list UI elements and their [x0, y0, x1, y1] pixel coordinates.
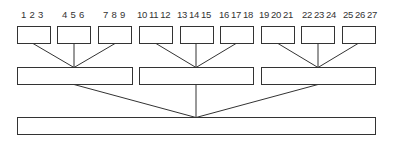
leaf-box-9: [343, 27, 376, 44]
connector: [196, 44, 236, 68]
middle-box-2: [140, 68, 254, 85]
leaf-label-2: 4 5 6: [62, 10, 85, 20]
leaf-label-4: 10 11 12: [137, 10, 170, 20]
leaf-box-6: [221, 27, 254, 44]
leaf-label-1: 1 2 3: [21, 10, 44, 20]
leaf-box-8: [302, 27, 335, 44]
leaf-label-7: 19 20 21: [259, 10, 293, 20]
leaf-label-9: 25 26 27: [343, 10, 377, 20]
tree-diagram: [0, 0, 393, 145]
leaf-box-4: [140, 27, 173, 44]
connector: [278, 44, 318, 68]
leaf-box-3: [99, 27, 132, 44]
leaf-label-8: 22 23 24: [302, 10, 336, 20]
middle-box-3: [262, 68, 376, 85]
connector: [33, 44, 74, 68]
leaf-box-5: [181, 27, 214, 44]
middle-box-1: [18, 68, 133, 85]
connector: [318, 44, 358, 68]
leaf-box-1: [18, 27, 51, 44]
connector: [74, 85, 196, 118]
connector: [196, 85, 318, 118]
leaf-label-3: 7 8 9: [103, 10, 126, 20]
leaf-label-6: 16 17 18: [219, 10, 253, 20]
leaf-box-7: [262, 27, 295, 44]
root-box: [18, 118, 376, 135]
leaf-box-2: [58, 27, 91, 44]
connector: [74, 44, 115, 68]
leaf-label-5: 13 14 15: [177, 10, 211, 20]
connector: [156, 44, 196, 68]
